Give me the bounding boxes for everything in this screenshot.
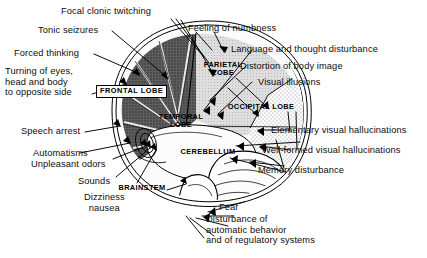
annotation-tonic-seizures: Tonic seizures [38,25,98,36]
annotation-automatisms: Automatisms [33,148,88,159]
annotation-focal-clonic-twitching: Focal clonic twitching [61,6,151,17]
annotation-forced-thinking: Forced thinking [14,48,79,59]
structure-label-temporal-lobe: TEMPORAL LOBE [153,113,209,130]
annotation-visual-illusions: Visual illusions [258,77,320,88]
annotation-elementary-visual-hallucinations: Elementary visual hallucinations [271,125,407,136]
annotation-distortion-of-body-image: Distortion of body image [240,61,343,72]
annotation-unpleasant-odors: Unpleasant odors [31,159,105,170]
annotation-language-thought-disturbance: Language and thought disturbance [231,44,378,55]
structure-label-frontal-lobe: FRONTAL LOBE [96,85,167,98]
annotation-sounds: Sounds [78,176,110,187]
annotation-turning-of-eyes: Turning of eyes, head and body to opposi… [5,66,73,98]
annotation-fear: Fear [219,202,239,213]
annotation-well-formed-visual-hallucinations: Well-formed visual hallucinations [262,145,401,156]
annotation-feeling-of-numbness: Feeling of numbness [188,23,276,34]
brain-diagram: FRONTAL LOBE PARIETAL LOBE OCCIPITAL LOB… [0,0,427,258]
annotation-speech-arrest: Speech arrest [21,126,80,137]
structure-label-occipital-lobe: OCCIPITAL LOBE [224,103,298,111]
annotation-autonomic-disturbance: Disturbance of automatic behavior and of… [206,214,315,246]
structure-label-cerebellum: CEREBELLUM [175,148,241,156]
annotation-dizziness-nausea: Dizziness nausea [84,192,125,213]
annotation-memory-disturbance: Memory disturbance [258,165,344,176]
